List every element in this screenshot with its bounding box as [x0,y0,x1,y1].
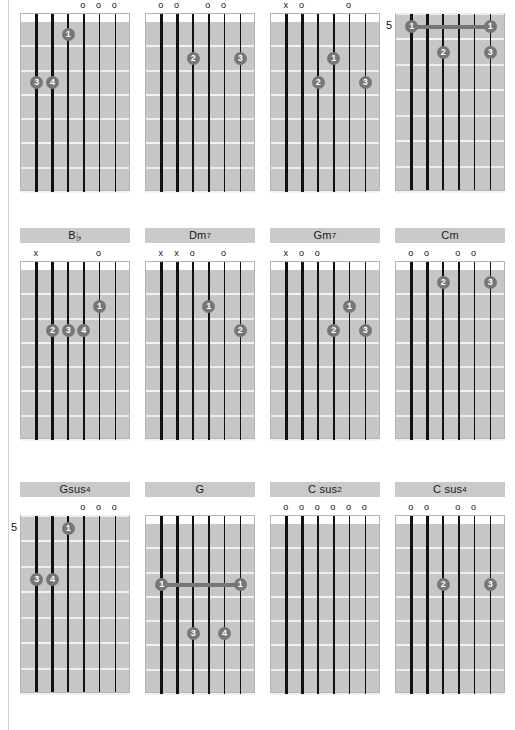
barre-bar [162,583,241,587]
string-6 [365,14,366,192]
open-string-marker: o [453,502,462,513]
open-mute-marker-row: ooo [20,0,130,11]
string-2 [51,14,54,192]
finger-dot-3: 3 [484,46,497,59]
string-6 [115,516,116,692]
chord-name-label: G [145,482,255,497]
string-5 [474,516,475,694]
string-1 [285,14,288,192]
open-string-marker: o [297,0,306,11]
string-2 [176,516,179,694]
string-5 [349,516,350,694]
string-3 [192,516,195,694]
fretboard: 134 [20,13,130,191]
open-string-marker: o [313,248,322,259]
finger-dot-3: 3 [359,324,372,337]
open-mute-marker-row: oooo [145,0,255,11]
finger-dot-2: 2 [312,76,325,89]
open-mute-marker-row: oooo [395,502,505,513]
string-4 [83,262,84,440]
fretboard: 1123 [395,13,505,191]
string-2 [176,14,179,192]
fretboard [270,515,380,693]
string-6 [115,262,116,440]
string-4 [83,516,84,692]
string-6 [115,14,116,192]
finger-dot-3: 3 [30,76,43,89]
open-string-marker: o [78,0,87,11]
open-string-marker: o [219,248,228,259]
string-6 [240,262,241,440]
open-string-marker: o [172,0,181,11]
open-string-marker: o [94,248,103,259]
finger-dot-2: 2 [187,52,200,65]
finger-dot-3: 3 [484,276,497,289]
open-mute-marker-row: ooxx [145,248,255,259]
open-mute-marker-row: oooo [395,248,505,259]
open-string-marker: o [203,0,212,11]
string-1 [285,516,288,694]
fretboard: 123 [270,261,380,439]
chord-chart-page: ooo134oooo23oox12311235B♭ox1234Dm7ooxx12… [0,0,515,730]
open-string-marker: o [422,248,431,259]
chord-name-label: B♭ [20,228,130,243]
chord-name-label: Gm7 [270,228,380,243]
string-6 [240,516,241,694]
string-5 [99,516,100,692]
finger-dot-2: 2 [234,324,247,337]
finger-dot-1: 1 [343,300,356,313]
finger-dot-2: 2 [437,46,450,59]
muted-string-marker: x [172,248,181,259]
string-6 [490,262,491,440]
open-string-marker: o [94,502,103,513]
open-string-marker: o [406,502,415,513]
string-5 [474,14,475,190]
string-5 [474,262,475,440]
chord-name-label: C sus4 [395,482,505,497]
chord-name-text: B [68,230,76,241]
chord-name-text: Dm [189,230,207,241]
open-string-marker: o [406,248,415,259]
string-3 [192,14,195,192]
string-5 [224,516,225,694]
finger-dot-3: 3 [484,578,497,591]
barre-bar [412,25,491,29]
fret-position-marker: 5 [380,20,392,31]
string-3 [317,262,320,440]
string-6 [490,14,491,190]
chord-name-text: Gsus [59,484,85,495]
finger-dot-4: 4 [46,76,59,89]
fret-line [21,693,129,695]
open-mute-marker-row [145,502,255,513]
open-string-marker: o [469,502,478,513]
open-mute-marker-row: ooo [20,502,130,513]
chord-name-label: C sus2 [270,482,380,497]
open-mute-marker-row: oooooo [270,502,380,513]
string-5 [224,262,225,440]
string-2 [426,516,429,694]
chord-diagram-grid: ooo134oooo23oox12311235B♭ox1234Dm7ooxx12… [0,0,515,730]
finger-dot-2: 2 [437,276,450,289]
string-3 [317,14,320,192]
finger-dot-1: 1 [62,28,75,41]
string-6 [490,516,491,694]
string-3 [67,516,70,692]
open-string-marker: o [78,502,87,513]
open-string-marker: o [344,0,353,11]
string-6 [365,516,366,694]
chord-name-text: G [196,484,205,495]
string-1 [160,262,163,440]
string-6 [240,14,241,192]
finger-dot-1: 1 [155,578,168,591]
open-mute-marker-row: oox [270,248,380,259]
chord-name-label: Gsus4 [20,482,130,497]
open-string-marker: o [219,0,228,11]
string-4 [208,262,209,440]
string-1 [160,14,163,192]
finger-dot-4: 4 [77,324,90,337]
finger-dot-4: 4 [218,627,231,640]
fretboard: 1234 [20,261,130,439]
string-4 [333,262,334,440]
fretboard: 1134 [145,515,255,693]
chord-name-label: Cm [395,228,505,243]
